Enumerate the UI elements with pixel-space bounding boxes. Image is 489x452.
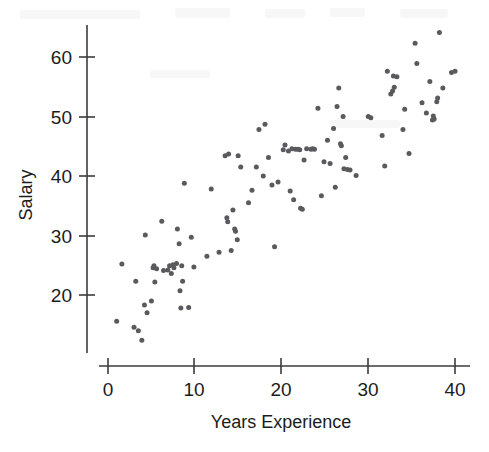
scatter-point [402, 107, 407, 112]
scatter-point [246, 200, 251, 205]
scatter-point [189, 235, 194, 240]
scatter-point [254, 165, 259, 170]
scatter-point [182, 181, 187, 186]
scatter-point [169, 271, 174, 276]
scatter-point [136, 328, 141, 333]
scatter-point [204, 254, 209, 259]
y-tick-label-20: 20 [51, 285, 72, 306]
scatter-point [432, 116, 437, 121]
x-tick-label-30: 30 [357, 379, 378, 400]
x-tick-label-20: 20 [270, 379, 291, 400]
scatter-point [263, 122, 268, 127]
scatter-point [261, 174, 266, 179]
scatter-point [178, 288, 183, 293]
y-axis-title: Salary [16, 169, 36, 220]
scatter-point [420, 100, 425, 105]
scatter-point [382, 163, 387, 168]
scatter-point [331, 126, 336, 131]
scatter-point [288, 188, 293, 193]
scatter-plot-figure: 60 50 40 30 20 0 10 20 30 40 Years Exper… [0, 0, 489, 452]
scatter-point [159, 219, 164, 224]
x-tick-label-10: 10 [183, 379, 204, 400]
y-tick-label-60: 60 [51, 47, 72, 68]
scatter-point [177, 241, 182, 246]
scatter-point [233, 229, 238, 234]
scatter-point [133, 279, 138, 284]
scatter-point [407, 151, 412, 156]
scatter-point [152, 279, 157, 284]
x-tick-label-0: 0 [103, 379, 114, 400]
scatter-point [272, 244, 277, 249]
scatter-point [186, 305, 191, 310]
scatter-point [143, 232, 148, 237]
scatter-point [145, 310, 150, 315]
scatter-point [236, 153, 241, 158]
scatter-point [282, 143, 287, 148]
scatter-point [178, 306, 183, 311]
scatter-point [297, 147, 302, 152]
scatter-point [142, 303, 147, 308]
scatter-point [276, 179, 281, 184]
scatter-point [171, 265, 176, 270]
y-tick-label-40: 40 [51, 166, 72, 187]
plot-canvas: 60 50 40 30 20 0 10 20 30 40 Years Exper… [0, 0, 489, 452]
scatter-point [139, 338, 144, 343]
y-tick-label-30: 30 [51, 226, 72, 247]
scatter-point [226, 151, 231, 156]
scatter-point [354, 173, 359, 178]
scatter-point [175, 226, 180, 231]
scatter-point [300, 207, 305, 212]
scatter-point [368, 115, 373, 120]
scatter-point [191, 265, 196, 270]
scatter-point [435, 96, 440, 101]
scatter-point [333, 185, 338, 190]
scatter-point [453, 69, 458, 74]
scatter-point [339, 143, 344, 148]
scatter-point [132, 325, 137, 330]
scatter-point [312, 147, 317, 152]
scatter-point [225, 219, 230, 224]
scatter-point [161, 268, 166, 273]
scatter-point [149, 298, 154, 303]
scatter-point [394, 74, 399, 79]
scatter-points-layer [114, 30, 457, 343]
scatter-point [424, 110, 429, 115]
scatter-point [174, 261, 179, 266]
scatter-point [400, 127, 405, 132]
scatter-point [427, 79, 432, 84]
scatter-point [291, 197, 296, 202]
scatter-point [335, 104, 340, 109]
scatter-point [414, 61, 419, 66]
scatter-point [209, 187, 214, 192]
scatter-point [380, 133, 385, 138]
scatter-point [385, 69, 390, 74]
x-axis-title: Years Experience [211, 412, 351, 432]
scatter-point [217, 250, 222, 255]
scatter-point [238, 165, 243, 170]
scatter-point [319, 193, 324, 198]
scatter-point [437, 30, 442, 35]
scatter-point [440, 85, 445, 90]
scatter-point [315, 106, 320, 111]
x-tick-label-40: 40 [444, 379, 465, 400]
scatter-point [229, 248, 234, 253]
scatter-point [281, 147, 286, 152]
scatter-point [328, 161, 333, 166]
scatter-point [413, 41, 418, 46]
scatter-point [302, 157, 307, 162]
scatter-point [322, 159, 327, 164]
scatter-point [235, 237, 240, 242]
scatter-point [114, 319, 119, 324]
scatter-point [336, 85, 341, 90]
scatter-point [392, 85, 397, 90]
scatter-point [348, 168, 353, 173]
scatter-point [224, 215, 229, 220]
scatter-point [180, 279, 185, 284]
scatter-point [343, 155, 348, 160]
scatter-point [325, 138, 330, 143]
scatter-point [119, 262, 124, 267]
scatter-point [154, 266, 159, 271]
scatter-point [304, 146, 309, 151]
scatter-point [341, 114, 346, 119]
scatter-point [266, 155, 271, 160]
